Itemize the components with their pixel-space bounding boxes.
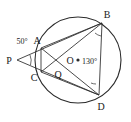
geometry-figure: A B C D P Q O 50° 130° (0, 0, 131, 122)
center-dot-o (76, 58, 79, 61)
geometry-canvas: A B C D P Q O 50° 130° (0, 0, 131, 122)
point-label-o: O (66, 55, 73, 66)
point-label-a: A (33, 35, 41, 46)
angle-label-o: 130° (82, 57, 97, 66)
angle-arc-d (91, 83, 96, 84)
segment-bd (99, 23, 102, 95)
segment-cd (41, 72, 99, 95)
point-label-b: B (104, 9, 111, 20)
point-label-p: P (6, 55, 12, 66)
point-label-d: D (97, 101, 104, 112)
point-label-q: Q (54, 69, 62, 80)
point-label-c: C (31, 72, 38, 83)
angle-label-p: 50° (16, 37, 27, 46)
angle-arc-p (30, 55, 31, 65)
angle-arc-b (95, 33, 101, 36)
